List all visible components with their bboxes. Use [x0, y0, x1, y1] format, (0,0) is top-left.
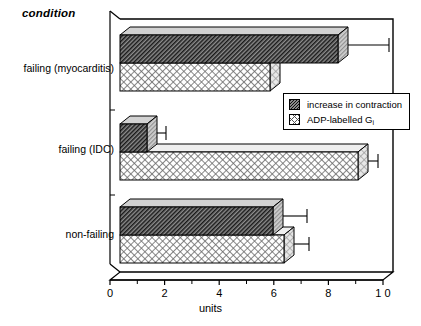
x-tick-label-4: 4 [216, 287, 222, 299]
bar-failing-idc-adp [120, 144, 368, 180]
bar-failing-idc-contraction [120, 116, 157, 152]
x-axis-ticks [110, 280, 383, 285]
x-axis-tick-labels: 0 2 4 6 8 1 0 [107, 287, 391, 299]
chart-legend: increase in contraction ADP-labelled Gi [283, 93, 410, 130]
x-tick-label-6: 6 [271, 287, 277, 299]
bar-chart-figure: condition failing (myocarditis) failing … [0, 0, 421, 326]
y-axis-ticks [110, 110, 115, 195]
x-tick-label-10: 1 0 [375, 287, 390, 299]
legend-item-increase-in-contraction: increase in contraction [289, 98, 402, 111]
x-tick-label-8: 8 [325, 287, 331, 299]
legend-item-adp-labelled-gi: ADP-labelled Gi [289, 113, 374, 126]
bar-failing-myocarditis-contraction [120, 27, 348, 63]
x-tick-label-2: 2 [162, 287, 168, 299]
legend-swatch-light-crosshatch-icon [289, 114, 300, 125]
plot-area: 0 2 4 6 8 1 0 [0, 0, 421, 326]
legend-label-adp-subscript: i [372, 119, 374, 126]
legend-swatch-dark-hatch-icon [289, 99, 300, 110]
bar-non-failing-contraction [120, 199, 283, 235]
x-tick-label-0: 0 [107, 287, 113, 299]
legend-label-adp-prefix: ADP-labelled G [307, 114, 372, 125]
legend-label-increase-in-contraction: increase in contraction [307, 99, 402, 110]
legend-label-adp-labelled-gi: ADP-labelled Gi [307, 114, 374, 125]
x-axis-title: units [0, 302, 421, 314]
